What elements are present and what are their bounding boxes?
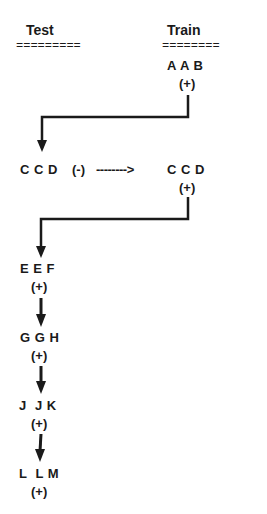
- elbow-arrow-ccd-to-eef: [36, 197, 188, 258]
- arrowhead-icon: [37, 140, 47, 152]
- arrowhead-icon: [36, 314, 46, 327]
- connector-lines: [0, 0, 267, 514]
- arrow-jjk-to-llm: [35, 434, 45, 462]
- arrowhead-icon: [35, 449, 45, 462]
- arrowhead-icon: [36, 381, 46, 394]
- arrowhead-icon: [36, 246, 46, 258]
- arrow-ggh-to-jjk: [36, 366, 46, 394]
- elbow-arrow-aab-to-ccd: [37, 95, 188, 152]
- arrow-eef-to-ggh: [36, 298, 46, 327]
